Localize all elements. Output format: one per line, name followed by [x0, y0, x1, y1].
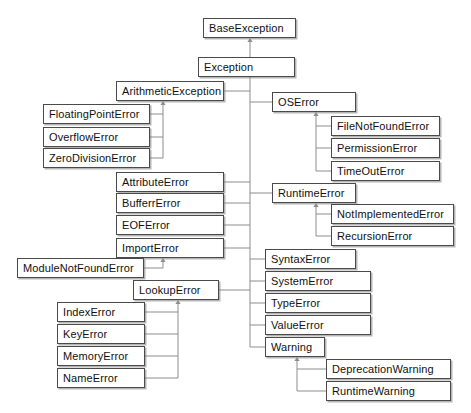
class-node-label: FloatingPointError: [49, 109, 139, 120]
class-node-name-error[interactable]: NameError: [57, 368, 145, 388]
class-node-zero-division-error[interactable]: ZeroDivisionError: [43, 148, 150, 168]
class-node-label: SystemError: [271, 276, 333, 287]
class-node-system-error[interactable]: SystemError: [265, 271, 371, 291]
class-node-overflow-error[interactable]: OverflowError: [43, 127, 150, 147]
class-node-key-error[interactable]: KeyError: [57, 324, 145, 344]
class-node-label: RecursionError: [337, 231, 412, 242]
class-node-label: LookupError: [139, 285, 201, 296]
class-node-permission-error[interactable]: PermissionError: [331, 138, 440, 158]
class-node-memory-error[interactable]: MemoryError: [57, 346, 145, 366]
class-node-base-exception[interactable]: BaseException: [203, 18, 296, 38]
class-node-floating-point-error[interactable]: FloatingPointError: [43, 104, 150, 124]
class-node-attribute-error[interactable]: AttributeError: [116, 172, 224, 192]
class-node-label: MemoryError: [63, 351, 128, 362]
class-node-label: ImportError: [122, 243, 179, 254]
class-node-syntax-error[interactable]: SyntaxError: [265, 249, 356, 269]
class-node-label: IndexError: [63, 307, 115, 318]
class-node-label: DeprecationWarning: [332, 364, 434, 375]
class-node-label: Warning: [271, 342, 312, 353]
class-node-os-error[interactable]: OSError: [272, 92, 356, 112]
class-node-label: PermissionError: [337, 143, 417, 154]
class-node-label: BufferrError: [122, 198, 180, 209]
class-node-label: RuntimeWarning: [332, 386, 415, 397]
class-node-label: ZeroDivisionError: [49, 153, 136, 164]
class-node-import-error[interactable]: ImportError: [116, 238, 224, 258]
class-node-label: KeyError: [63, 329, 107, 340]
class-node-label: RuntimeError: [278, 188, 345, 199]
class-node-arithmetic-exception[interactable]: ArithmeticException: [116, 81, 224, 101]
class-node-deprecation-warning[interactable]: DeprecationWarning: [326, 359, 451, 379]
class-node-label: OSError: [278, 97, 319, 108]
class-node-time-out-error[interactable]: TimeOutError: [331, 161, 440, 181]
class-node-label: ArithmeticException: [122, 86, 221, 97]
class-node-label: NameError: [63, 373, 118, 384]
class-node-bufferr-error[interactable]: BufferrError: [116, 193, 224, 213]
class-node-label: TypeError: [271, 298, 320, 309]
class-node-label: FileNotFoundError: [337, 121, 429, 132]
class-node-index-error[interactable]: IndexError: [57, 302, 145, 322]
class-node-label: EOFError: [122, 220, 170, 231]
class-node-type-error[interactable]: TypeError: [265, 293, 371, 313]
class-node-label: AttributeError: [122, 177, 189, 188]
class-node-runtime-error[interactable]: RuntimeError: [272, 183, 356, 203]
class-node-label: ValueError: [271, 320, 324, 331]
class-node-label: BaseException: [209, 23, 284, 34]
class-node-label: SyntaxError: [271, 254, 330, 265]
exception-hierarchy-diagram: BaseExceptionExceptionArithmeticExceptio…: [0, 0, 471, 413]
class-node-label: Exception: [204, 62, 253, 73]
class-node-eof-error[interactable]: EOFError: [116, 215, 224, 235]
class-node-label: NotImplementedError: [337, 209, 444, 220]
class-node-value-error[interactable]: ValueError: [265, 315, 371, 335]
class-node-recursion-error[interactable]: RecursionError: [331, 226, 454, 246]
class-node-file-not-found-error[interactable]: FileNotFoundError: [331, 116, 440, 136]
class-node-label: TimeOutError: [337, 166, 404, 177]
class-node-runtime-warning[interactable]: RuntimeWarning: [326, 381, 451, 401]
class-node-exception[interactable]: Exception: [198, 57, 295, 77]
class-node-not-implemented[interactable]: NotImplementedError: [331, 204, 454, 224]
class-node-label: OverflowError: [49, 132, 118, 143]
class-node-warning[interactable]: Warning: [265, 337, 325, 357]
class-node-module-not-found[interactable]: ModuleNotFoundError: [17, 258, 144, 278]
class-node-label: ModuleNotFoundError: [23, 263, 134, 274]
class-node-lookup-error[interactable]: LookupError: [133, 280, 219, 300]
